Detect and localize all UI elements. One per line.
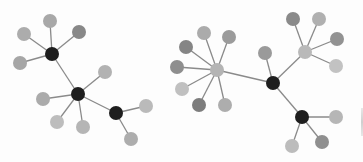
- hub-node-C: [109, 106, 123, 120]
- leaf-node-F3: [330, 32, 344, 46]
- leaf-node-G2: [315, 135, 329, 149]
- leaf-node-D4: [170, 60, 184, 74]
- leaf-node-D1: [197, 26, 211, 40]
- hub-node-G: [295, 110, 309, 124]
- hub-node-F: [298, 45, 312, 59]
- leaf-node-B3: [50, 115, 64, 129]
- edge-A-B: [52, 54, 78, 94]
- hub-node-A: [45, 47, 59, 61]
- leaf-node-B1: [98, 65, 112, 79]
- leaf-node-D3: [179, 40, 193, 54]
- network-graph-svg: [0, 0, 363, 162]
- leaf-node-C1: [139, 99, 153, 113]
- leaf-node-G3: [285, 139, 299, 153]
- leaf-node-A2: [17, 27, 31, 41]
- leaf-node-A1: [43, 14, 57, 28]
- leaf-node-G1: [329, 110, 343, 124]
- leaf-node-E1: [258, 46, 272, 60]
- right-graph-nodes: [170, 12, 344, 153]
- edge-D-E: [217, 70, 273, 83]
- leaf-node-D6: [192, 98, 206, 112]
- hub-node-D: [210, 63, 224, 77]
- leaf-node-F2: [312, 12, 326, 26]
- leaf-node-C2: [124, 132, 138, 146]
- leaf-node-F4: [329, 59, 343, 73]
- edges-layer: [20, 19, 337, 146]
- left-graph-nodes: [13, 14, 153, 146]
- nodes-layer: [13, 12, 344, 153]
- leaf-node-B2: [36, 92, 50, 106]
- network-diagram-canvas: [0, 0, 363, 162]
- leaf-node-A3: [72, 25, 86, 39]
- leaf-node-D5: [175, 82, 189, 96]
- leaf-node-A4: [13, 56, 27, 70]
- leaf-node-D2: [222, 30, 236, 44]
- leaf-node-F1: [286, 12, 300, 26]
- hub-node-E: [266, 76, 280, 90]
- leaf-node-D7: [218, 98, 232, 112]
- hub-node-B: [71, 87, 85, 101]
- leaf-node-B4: [76, 120, 90, 134]
